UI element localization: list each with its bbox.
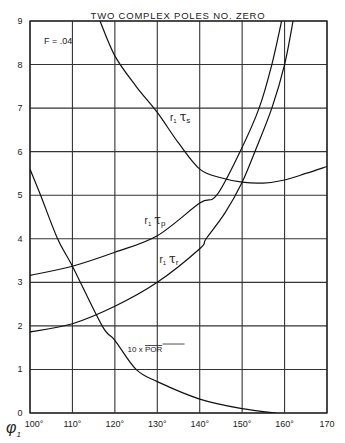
chart: r1τsr1τpr1τr10 x POR 0123456789100°110°1…	[0, 0, 345, 443]
series-label: r1τr	[159, 252, 178, 267]
curves	[30, 21, 327, 413]
series-label: r1τp	[145, 213, 166, 228]
series-label: r1τs	[170, 110, 190, 125]
svg-text:φ1: φ1	[6, 419, 21, 439]
x-tick-label: 100°	[25, 419, 44, 429]
f-annotation: F = .04	[44, 36, 72, 46]
chart-title: TWO COMPLEX POLES NO. ZERO	[91, 10, 266, 21]
series-line	[30, 21, 293, 332]
y-tick-label: 7	[17, 103, 22, 113]
y-tick-label: 1	[17, 364, 22, 374]
x-tick-label: 140°	[190, 419, 209, 429]
plot-frame	[30, 21, 327, 413]
y-tick-label: 9	[17, 16, 22, 26]
y-tick-label: 2	[17, 321, 22, 331]
y-tick-label: 4	[17, 234, 22, 244]
x-tick-label: 170	[319, 419, 334, 429]
y-tick-label: 6	[17, 147, 22, 157]
series-label: 10 x POR	[128, 345, 163, 354]
x-tick-label: 150°	[233, 419, 252, 429]
series-line	[30, 169, 276, 413]
x-tick-label: 110°	[63, 419, 81, 429]
x-tick-label: 160°	[275, 419, 294, 429]
grid	[30, 21, 327, 413]
series-line	[30, 21, 282, 275]
y-tick-label: 8	[17, 60, 22, 70]
x-axis-label: φ1	[6, 419, 21, 439]
x-tick-label: 130°	[148, 419, 167, 429]
series-line	[100, 21, 327, 183]
y-tick-label: 5	[17, 190, 22, 200]
y-tick-label: 0	[17, 408, 22, 418]
y-tick-label: 3	[17, 277, 22, 287]
x-tick-label: 120°	[106, 419, 125, 429]
